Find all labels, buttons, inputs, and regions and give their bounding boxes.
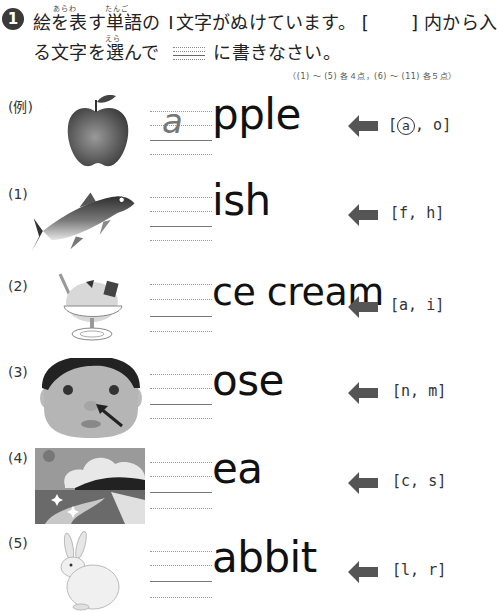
writing-lines (150, 276, 212, 346)
row-label: (5) (8, 535, 28, 551)
choices: [l, r] (392, 561, 446, 579)
instruction-text: 文字がぬけています。 [ (176, 12, 369, 33)
face-nose-illustration (38, 358, 144, 438)
choice-option: n (401, 382, 410, 400)
word-text: ose (212, 356, 284, 405)
choice-option-circled: a (397, 117, 415, 135)
choice-option: s (428, 472, 437, 490)
writing-lines (150, 541, 212, 611)
row-label: (1) (8, 186, 28, 202)
ice-cream-illustration (50, 272, 140, 352)
word-text: ea (212, 444, 263, 493)
row-label: (4) (8, 450, 28, 466)
instruction-line-2: る文字を選んで えら に書きなさい。 (33, 38, 341, 64)
fish-illustration (30, 180, 140, 260)
instruction-text: 絵を表す単語の (33, 12, 160, 33)
choice-option: m (428, 382, 437, 400)
writing-lines (150, 452, 212, 522)
choices: [a, o] (388, 116, 451, 135)
arrow-left-icon (348, 382, 378, 404)
writing-lines (150, 184, 212, 254)
choice-option: r (428, 561, 437, 579)
sea-illustration (35, 448, 145, 524)
instruction-digit: I (168, 12, 174, 33)
question-row-3: (3) ose [n, m] (0, 356, 461, 442)
instruction-text: ] 内から入 (411, 12, 497, 33)
word-text: abbit (212, 533, 317, 582)
example-row: (例) a pple [a, o] (0, 88, 461, 174)
writing-lines-sample (173, 45, 205, 61)
rabbit-illustration (55, 531, 125, 611)
question-number-badge: 1 (2, 8, 24, 30)
arrow-left-icon (348, 296, 378, 318)
answer-text: a (162, 101, 183, 141)
instruction-text: に書きなさい。 (213, 42, 340, 63)
choice-option: a (399, 296, 408, 314)
arrow-left-icon (348, 472, 378, 494)
choices: [n, m] (392, 382, 446, 400)
apple-illustration (40, 90, 150, 170)
points-note: （(1) ～ (5) 各４点，(6) ～ (11) 各５点） (288, 70, 457, 81)
question-row-4: (4) ea [c, s] (0, 442, 461, 528)
row-label: (2) (8, 278, 28, 294)
row-label: (3) (8, 364, 28, 380)
choices: [a, i] (390, 296, 444, 314)
choices: [f, h] (390, 204, 444, 222)
ruby-tango: たんご (105, 3, 129, 13)
choices: [c, s] (392, 472, 446, 490)
word-text: pple (212, 90, 301, 139)
instruction-text: る文字を選んで (33, 42, 159, 63)
question-row-1: (1) ish [f, h] (0, 178, 461, 264)
instruction-line-1: 絵を表す単語の あらわ たんご I文字がぬけています。 [] 内から入 (33, 8, 497, 34)
word-text: ish (212, 176, 271, 225)
choice-option: h (426, 204, 435, 222)
ruby-era: えら (105, 33, 121, 43)
question-row-2: (2) ce cream [a, i] (0, 270, 461, 356)
ruby-arawa: あらわ (53, 3, 77, 13)
arrow-left-icon (348, 561, 378, 583)
writing-lines (150, 366, 212, 436)
choice-option: i (426, 296, 435, 314)
choice-option: f (399, 204, 408, 222)
choice-option: c (401, 472, 410, 490)
choice-option: o (433, 116, 442, 134)
question-row-5: (5) abbit [l, r] (0, 527, 461, 611)
row-label: (例) (8, 96, 33, 116)
arrow-left-icon (348, 204, 378, 226)
choice-option: l (401, 561, 410, 579)
arrow-left-icon (348, 115, 378, 137)
